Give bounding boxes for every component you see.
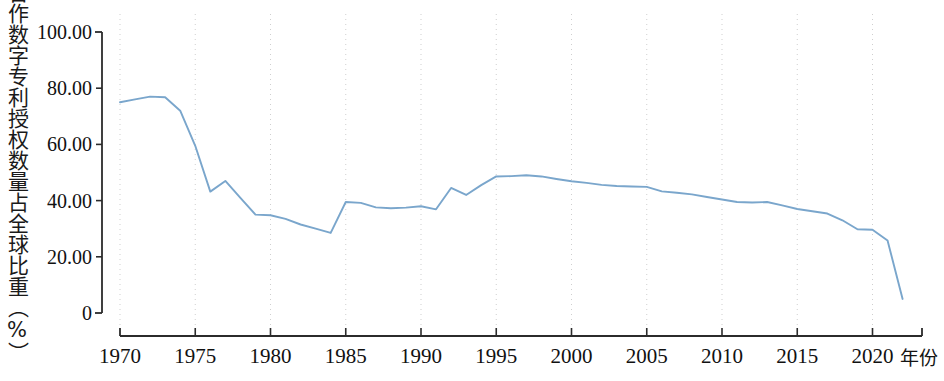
axis-spines	[95, 32, 922, 336]
axis-ticks	[96, 88, 873, 336]
data-series-line	[120, 97, 903, 299]
chart-plot-area	[0, 0, 944, 381]
chart-container: 合作数字专利授权数量占全球比重（%） 020.0040.0060.0080.00…	[0, 0, 944, 381]
vertical-gridlines	[120, 14, 873, 327]
